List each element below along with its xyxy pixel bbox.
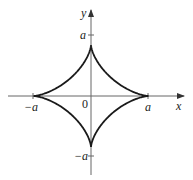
origin-label: 0 bbox=[82, 97, 88, 111]
astroid-diagram: y a −a −a a x 0 bbox=[0, 0, 193, 180]
x-tick-label-a: a bbox=[145, 100, 151, 114]
x-axis-label: x bbox=[175, 99, 182, 113]
x-tick-label-neg-a: −a bbox=[24, 100, 38, 114]
y-tick-label-a: a bbox=[80, 28, 86, 42]
y-tick-label-neg-a: −a bbox=[74, 149, 88, 163]
y-axis-label: y bbox=[80, 6, 87, 20]
